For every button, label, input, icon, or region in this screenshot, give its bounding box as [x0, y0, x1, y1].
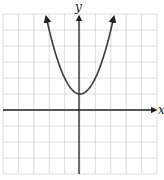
- x-axis-label: x: [158, 103, 164, 117]
- graph: x y: [0, 0, 164, 180]
- y-axis-label: y: [74, 0, 82, 14]
